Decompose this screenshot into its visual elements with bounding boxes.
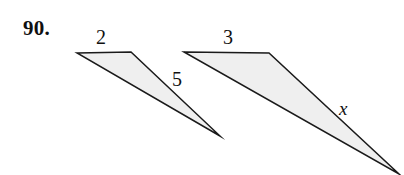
triangles-diagram <box>0 0 404 175</box>
left-triangle-hypotenuse-label: 5 <box>172 69 182 89</box>
geometry-figure: 90. 2 5 3 x <box>0 0 404 175</box>
right-triangle-shape <box>184 52 399 174</box>
right-triangle-hypotenuse-label: x <box>339 99 347 118</box>
problem-number: 90. <box>23 18 50 39</box>
left-triangle-top-side-label: 2 <box>96 27 106 47</box>
left-triangle-shape <box>77 52 220 136</box>
right-triangle-top-side-label: 3 <box>223 27 233 47</box>
